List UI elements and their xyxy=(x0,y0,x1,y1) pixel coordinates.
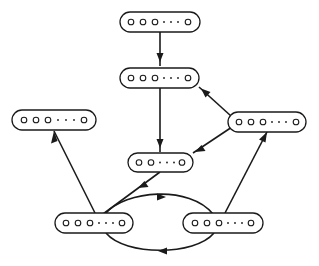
ellipsis-dot xyxy=(177,77,179,79)
edge-bottom-left-to-left xyxy=(51,131,95,213)
arrowhead-icon xyxy=(157,53,164,62)
node-top[interactable] xyxy=(120,12,200,32)
ellipsis-dot xyxy=(234,222,236,224)
circle-icon xyxy=(236,119,242,125)
circle-icon xyxy=(185,75,191,81)
ellipsis-dot xyxy=(285,121,287,123)
ellipsis-dot xyxy=(57,119,59,121)
circle-icon xyxy=(75,220,81,226)
arrowhead-icon xyxy=(259,132,267,143)
edge-bottom-right-to-bottom-left xyxy=(106,233,214,255)
circle-icon xyxy=(33,117,39,123)
arrowhead-icon xyxy=(157,139,164,148)
circle-icon xyxy=(260,119,266,125)
circle-icon xyxy=(128,75,134,81)
circle-icon xyxy=(152,19,158,25)
edge-bottom-right-to-right xyxy=(225,132,267,213)
node-right[interactable] xyxy=(228,112,306,132)
graph-canvas xyxy=(0,0,319,266)
ellipsis-dot xyxy=(65,119,67,121)
ellipsis-dot xyxy=(73,119,75,121)
circle-icon xyxy=(293,119,299,125)
circle-icon xyxy=(152,75,158,81)
circle-icon xyxy=(248,119,254,125)
circle-icon xyxy=(185,19,191,25)
circle-icon xyxy=(140,19,146,25)
edge-bottom-left-to-bottom-right xyxy=(105,194,213,215)
ellipsis-dot xyxy=(227,222,229,224)
circle-icon xyxy=(148,160,154,166)
ellipsis-dot xyxy=(177,21,179,23)
ellipsis-dot xyxy=(271,121,273,123)
circle-icon xyxy=(216,220,222,226)
circle-icon xyxy=(45,117,51,123)
node-middle[interactable] xyxy=(128,153,193,172)
ellipsis-dot xyxy=(278,121,280,123)
circle-icon xyxy=(140,75,146,81)
ellipsis-dot xyxy=(112,222,114,224)
circle-icon xyxy=(179,160,185,166)
ellipsis-dot xyxy=(173,162,175,164)
arrowhead-icon xyxy=(158,248,167,255)
circle-icon xyxy=(81,117,87,123)
circle-icon xyxy=(136,160,142,166)
ellipsis-dot xyxy=(241,222,243,224)
circle-icon xyxy=(204,220,210,226)
ellipsis-dot xyxy=(170,77,172,79)
circle-icon xyxy=(21,117,27,123)
ellipsis-dot xyxy=(170,21,172,23)
circle-icon xyxy=(119,220,125,226)
edge-top-to-second xyxy=(157,32,164,66)
circle-icon xyxy=(248,220,254,226)
circle-icon xyxy=(63,220,69,226)
node-left[interactable] xyxy=(12,110,96,130)
edge-right-to-middle xyxy=(193,127,232,153)
nodes xyxy=(12,12,306,233)
edge-right-to-second xyxy=(199,87,231,116)
ellipsis-dot xyxy=(163,77,165,79)
ellipsis-dot xyxy=(98,222,100,224)
edge-second-to-middle xyxy=(157,88,164,152)
circle-icon xyxy=(192,220,198,226)
ellipsis-dot xyxy=(166,162,168,164)
node-second[interactable] xyxy=(120,68,199,88)
node-bottom-left[interactable] xyxy=(55,213,133,233)
ellipsis-dot xyxy=(105,222,107,224)
ellipsis-dot xyxy=(159,162,161,164)
circle-icon xyxy=(128,19,134,25)
node-bottom-right[interactable] xyxy=(183,213,263,233)
ellipsis-dot xyxy=(163,21,165,23)
circle-icon xyxy=(87,220,93,226)
